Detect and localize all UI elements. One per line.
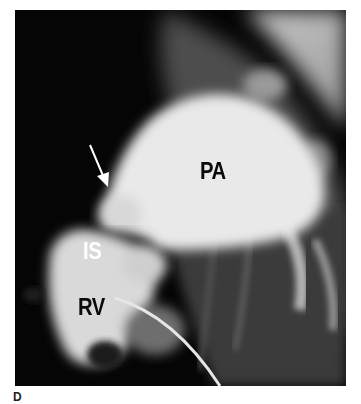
label-is: IS	[83, 240, 101, 263]
arrow-icon	[90, 145, 109, 187]
panel-letter: D	[13, 391, 22, 403]
label-rv: RV	[78, 296, 105, 319]
label-pa: PA	[200, 160, 226, 183]
angiogram-graphic	[15, 10, 346, 386]
angiogram-image: PA IS RV	[15, 10, 346, 386]
